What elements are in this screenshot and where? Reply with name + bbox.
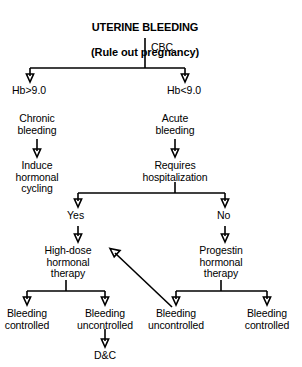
arrowhead-yes [74, 199, 81, 207]
arrowhead-highdose [74, 234, 81, 242]
arrowhead-bleeding-uncontrolled-left [101, 297, 108, 305]
label-hb-high: Hb>9.0 [12, 85, 46, 97]
node-high-dose-hormonal-therapy: High-dose hormonal therapy [31, 245, 105, 280]
flowchart-uterine-bleeding: UTERINE BLEEDING (Rule out pregnancy) CB… [0, 0, 302, 367]
arrowhead-hb-low [181, 74, 188, 82]
edge-feedback-to-highdose [115, 253, 172, 307]
label-no: No [217, 210, 230, 222]
page-title-line1: UTERINE BLEEDING [55, 21, 235, 34]
page-title: UTERINE BLEEDING (Rule out pregnancy) [55, 8, 235, 71]
page-title-line2: (Rule out pregnancy) [55, 46, 235, 59]
node-induce-hormonal-cycling: Induce hormonal cycling [2, 160, 72, 195]
arrowhead-bleeding-controlled-right [263, 297, 270, 305]
arrowhead-hospitalization [171, 149, 178, 157]
label-hb-low: Hb<9.0 [167, 85, 201, 97]
node-progestin-hormonal-therapy: Progestin hormonal therapy [186, 245, 256, 280]
node-acute-bleeding: Acute bleeding [140, 113, 210, 136]
label-cbc: CBC [151, 42, 173, 54]
label-yes: Yes [67, 210, 84, 222]
arrowhead-bleeding-uncontrolled-right [172, 297, 179, 305]
arrowhead-progestin [221, 234, 228, 242]
arrowhead-dc [101, 339, 108, 347]
node-bleeding-controlled-right: Bleeding controlled [234, 308, 300, 331]
node-bleeding-controlled-left: Bleeding controlled [0, 308, 60, 331]
node-bleeding-uncontrolled-right: Bleeding uncontrolled [139, 308, 213, 331]
arrowhead-hb-high [26, 74, 33, 82]
node-chronic-bleeding: Chronic bleeding [2, 113, 72, 136]
arrowhead-induce [33, 149, 40, 157]
node-bleeding-uncontrolled-left: Bleeding uncontrolled [68, 308, 142, 331]
arrowhead-feedback-highdose [110, 249, 120, 257]
node-requires-hospitalization: Requires hospitalization [120, 160, 230, 183]
arrowhead-no [221, 199, 228, 207]
arrowhead-bleeding-controlled-left [23, 297, 30, 305]
node-dc: D&C [80, 350, 130, 362]
